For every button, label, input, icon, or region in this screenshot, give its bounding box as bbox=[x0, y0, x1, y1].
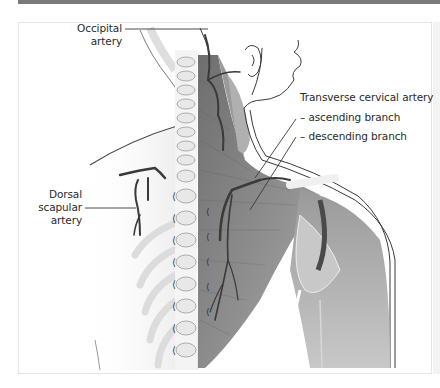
svg-text:⟨: ⟨ bbox=[172, 323, 176, 334]
svg-text:⟨: ⟨ bbox=[172, 301, 176, 312]
label-dorsal-scapular-artery: Dorsal scapular artery bbox=[28, 188, 82, 227]
svg-text:⟨: ⟨ bbox=[206, 257, 210, 267]
label-line: artery bbox=[28, 214, 82, 227]
label-line: Dorsal bbox=[28, 188, 82, 201]
svg-text:⟨: ⟨ bbox=[172, 257, 176, 268]
svg-text:⟨: ⟨ bbox=[206, 232, 210, 242]
label-transverse-cervical-artery: Transverse cervical artery bbox=[300, 91, 433, 104]
svg-text:⟨: ⟨ bbox=[172, 213, 176, 224]
label-occipital-artery: Occipital artery bbox=[66, 22, 122, 48]
clavicle bbox=[290, 178, 335, 185]
label-line: scapular bbox=[28, 201, 82, 214]
label-descending-branch: – descending branch bbox=[300, 130, 407, 143]
label-line: Occipital bbox=[66, 22, 122, 35]
arm-muscles bbox=[290, 178, 390, 368]
spine: ⟨⟨⟨ ⟨⟨⟨ ⟨⟨ bbox=[172, 50, 197, 370]
svg-text:⟨: ⟨ bbox=[206, 207, 210, 217]
label-ascending-branch: – ascending branch bbox=[300, 111, 400, 124]
svg-text:⟨: ⟨ bbox=[172, 191, 176, 202]
svg-text:⟨: ⟨ bbox=[172, 279, 176, 290]
svg-text:⟨: ⟨ bbox=[206, 282, 210, 292]
svg-text:⟨: ⟨ bbox=[206, 307, 210, 317]
label-line: artery bbox=[66, 35, 122, 48]
svg-text:⟨: ⟨ bbox=[172, 345, 176, 356]
svg-text:⟨: ⟨ bbox=[172, 235, 176, 246]
